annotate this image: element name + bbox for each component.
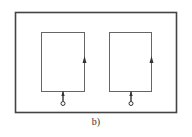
figure-caption: b) <box>0 116 192 127</box>
arrow-up-icon <box>83 56 87 63</box>
loop-left-rect <box>42 33 85 92</box>
arrow-up-icon <box>150 56 154 63</box>
arrow-up-icon <box>61 92 64 97</box>
arrow-up-icon <box>129 92 132 97</box>
terminal-circle-icon <box>129 102 133 106</box>
loop-left <box>42 33 87 106</box>
terminal-circle-icon <box>61 102 65 106</box>
loop-right <box>110 33 154 106</box>
loop-right-rect <box>110 33 152 92</box>
